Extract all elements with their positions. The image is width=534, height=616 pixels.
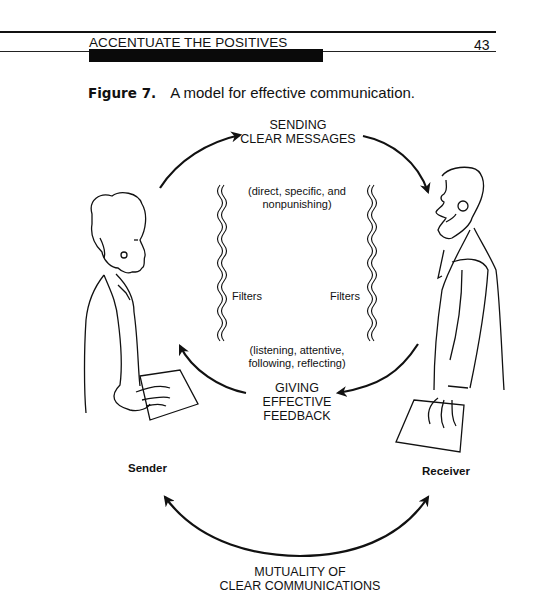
feedback-label-line-2: EFFECTIVE [247, 395, 347, 409]
top-qualifier-text: (direct, specific, and nonpunishing) [232, 185, 362, 211]
mutuality-label: MUTUALITY OF CLEAR COMMUNICATIONS [200, 565, 400, 593]
filter-right-wavy-icon [368, 185, 377, 341]
bottom-qualifier-line-2: following, reflecting) [232, 357, 362, 370]
feedback-label-line-1: GIVING [247, 381, 347, 395]
sending-label-line-2: CLEAR MESSAGES [218, 132, 378, 146]
bottom-qualifier-text: (listening, attentive, following, reflec… [232, 344, 362, 370]
sending-clear-messages-label: SENDING CLEAR MESSAGES [218, 118, 378, 146]
receiver-figure-icon [396, 167, 504, 452]
giving-effective-feedback-label: GIVING EFFECTIVE FEEDBACK [247, 381, 347, 423]
feedback-label-line-3: FEEDBACK [247, 409, 347, 423]
sender-label: Sender [128, 462, 167, 474]
mutuality-label-line-2: CLEAR COMMUNICATIONS [200, 579, 400, 593]
top-qualifier-line-1: (direct, specific, and [232, 185, 362, 198]
top-qualifier-line-2: nonpunishing) [232, 198, 362, 211]
filter-left-wavy-icon [218, 185, 227, 341]
bottom-qualifier-line-1: (listening, attentive, [232, 344, 362, 357]
sending-label-line-1: SENDING [218, 118, 378, 132]
sender-figure-icon [85, 193, 199, 420]
filter-left-label: Filters [232, 290, 262, 303]
mutuality-label-line-1: MUTUALITY OF [200, 565, 400, 579]
receiver-label: Receiver [422, 465, 470, 477]
filter-right-label: Filters [330, 290, 360, 303]
communication-diagram [0, 0, 534, 616]
mutual-arrow [165, 497, 428, 556]
